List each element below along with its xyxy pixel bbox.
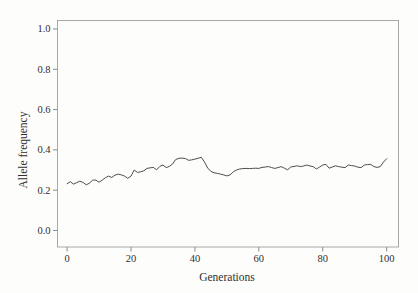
x-axis-label: Generations xyxy=(199,271,255,283)
x-tick-label: 80 xyxy=(318,253,329,264)
y-axis-label: Allele frequency xyxy=(17,111,30,188)
y-tick-label: 0.8 xyxy=(37,64,50,75)
x-tick-label: 20 xyxy=(126,253,137,264)
y-tick-label: 0.6 xyxy=(37,104,50,115)
y-tick-label: 0.2 xyxy=(37,185,50,196)
plot-area xyxy=(58,21,399,248)
y-tick-label: 0.4 xyxy=(37,144,51,155)
allele-frequency-trajectory xyxy=(67,157,387,185)
x-tick-label: 40 xyxy=(190,253,201,264)
y-tick-label: 0.0 xyxy=(37,225,50,236)
axis-tick-labels: 0204060801000.00.20.40.60.81.0 xyxy=(37,23,394,264)
line-chart: 0204060801000.00.20.40.60.81.0 Generatio… xyxy=(0,0,418,293)
x-tick-label: 100 xyxy=(379,253,395,264)
axis-ticks xyxy=(53,29,387,252)
data-series xyxy=(67,157,387,185)
figure-canvas: 0204060801000.00.20.40.60.81.0 Generatio… xyxy=(0,0,418,293)
y-tick-label: 1.0 xyxy=(37,23,50,34)
x-tick-label: 0 xyxy=(64,253,69,264)
x-tick-label: 60 xyxy=(254,253,265,264)
